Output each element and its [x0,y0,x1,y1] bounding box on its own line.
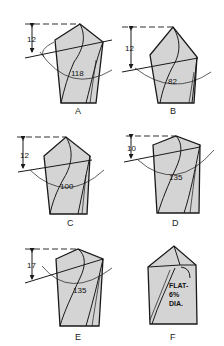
lip-clearance-b: 12 [125,44,134,53]
point-angle-d: 135 [169,173,183,182]
point-angle-a: 118 [71,69,84,78]
figure-c [17,137,104,214]
figure-label-a: A [75,106,81,116]
figure-e [25,249,112,326]
flat-note-line2: 6% [169,291,180,298]
lip-clearance-e: 17 [27,261,36,270]
lip-clearance-d: 10 [127,144,136,153]
point-angle-e: 135 [73,286,87,295]
figure-label-d: D [172,218,179,228]
lip-clearance-a: 12 [27,35,36,44]
figure-a [25,24,112,103]
point-angle-b: 82 [168,77,177,86]
flat-note-line1: FLAT- [169,282,189,289]
figure-label-c: C [67,218,74,228]
figure-label-e: E [75,332,81,342]
figure-label-b: B [170,106,176,116]
lip-clearance-c: 12 [20,151,29,160]
flat-note-line3: DIA. [169,300,183,307]
figure-b [122,27,211,103]
point-angle-c: 100 [60,182,74,191]
figure-label-f: F [170,332,176,342]
drill-point-diagram: 12 118 A 12 82 B 12 100 C 10 1 [0,0,224,346]
